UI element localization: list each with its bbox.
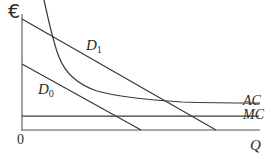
- d1-label: D1: [86, 38, 102, 55]
- d0-label: D0: [38, 82, 54, 99]
- y-axis-label: €: [8, 2, 20, 21]
- ac-label: AC: [243, 94, 261, 108]
- ac-curve: [44, 0, 259, 103]
- d0-label-subscript: 0: [49, 88, 54, 99]
- curves-group: [22, 0, 259, 130]
- axes-group: [21, 14, 260, 131]
- d1-label-base: D: [86, 37, 97, 53]
- economics-diagram: € D1 D0 AC MC 0 Q: [0, 0, 274, 167]
- origin-label: 0: [17, 133, 24, 147]
- d0-label-base: D: [38, 81, 49, 97]
- mc-label: MC: [243, 108, 264, 122]
- d1-label-subscript: 1: [97, 44, 102, 55]
- d1-curve: [22, 19, 216, 130]
- x-axis-label: Q: [250, 138, 261, 153]
